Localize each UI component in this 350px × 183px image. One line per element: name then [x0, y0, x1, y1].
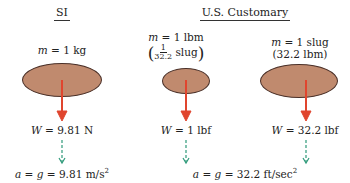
weight-arrow-lbm: [181, 80, 191, 121]
weight-arrow-slug: [301, 80, 311, 121]
si-acceleration-label: a = g = 9.81 m/s2: [4, 165, 120, 180]
accel-arrow-slug: [303, 140, 309, 163]
slug-weight-label: W = 32.2 lbf: [260, 124, 350, 136]
us-acceleration-label: a = g = 32.2 ft/sec2: [180, 165, 310, 180]
weight-arrow-si: [57, 80, 67, 121]
lbm-weight-label: W = 1 lbf: [150, 124, 222, 136]
accel-arrow-lbm: [183, 140, 189, 163]
si-weight-label: W = 9.81 N: [22, 124, 102, 136]
accel-arrow-si: [59, 140, 65, 163]
force-arrows: [0, 0, 350, 183]
